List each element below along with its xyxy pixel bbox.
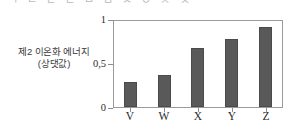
y-axis-title-line1: 제2 이온화 에너지 bbox=[8, 46, 100, 58]
x-tick-label-Z: Z bbox=[249, 110, 283, 122]
bar-slot-Y bbox=[215, 21, 249, 107]
bar-slot-X bbox=[181, 21, 215, 107]
x-axis-labels: V W X Y Z bbox=[113, 110, 283, 122]
bar-Z bbox=[259, 27, 272, 107]
plot-area bbox=[113, 20, 283, 108]
y-tick-label-0: 0 bbox=[80, 102, 106, 113]
bar-slot-W bbox=[148, 21, 182, 107]
bar-slot-Z bbox=[248, 21, 282, 107]
ionization-energy-bar-chart: ㄱ ㄴ ㄷ ㄹ ㅁ ㅂ ㅅ ㅇ ㅈ ㅊ 제2 이온화 에너지 (상댓값) 1 0… bbox=[0, 0, 292, 129]
bar-slot-V bbox=[114, 21, 148, 107]
bar-Y bbox=[225, 39, 238, 107]
clipped-text-remnant: ㄱ ㄴ ㄷ ㄹ ㅁ ㅂ ㅅ ㅇ ㅈ ㅊ bbox=[0, 0, 292, 9]
x-tick-label-Y: Y bbox=[215, 110, 249, 122]
clipped-text: ㄱ ㄴ ㄷ ㄹ ㅁ ㅂ ㅅ ㅇ ㅈ ㅊ bbox=[8, 0, 193, 7]
y-tick-mark-0 bbox=[108, 108, 113, 109]
x-tick-label-V: V bbox=[113, 110, 147, 122]
x-tick-label-X: X bbox=[181, 110, 215, 122]
y-tick-label-0.5: 0,5 bbox=[80, 58, 106, 69]
bar-X bbox=[191, 48, 204, 107]
bar-V bbox=[124, 82, 137, 107]
bar-W bbox=[158, 75, 171, 107]
x-tick-label-W: W bbox=[147, 110, 181, 122]
bar-series bbox=[114, 21, 282, 107]
y-tick-label-1: 1 bbox=[80, 14, 106, 25]
